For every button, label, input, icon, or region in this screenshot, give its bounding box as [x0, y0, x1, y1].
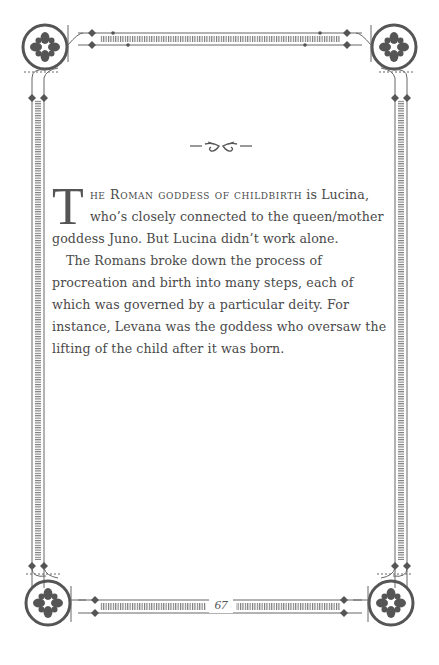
- corner-flourish-bottom-right: [353, 568, 413, 625]
- corner-flourish-bottom-left: [26, 568, 86, 625]
- body-text: The Roman goddess of childbirth is Lucin…: [52, 184, 392, 360]
- corner-flourish-top-left: [23, 25, 83, 78]
- fleuron-divider-icon: [188, 138, 254, 158]
- page-number: 67: [209, 597, 233, 613]
- corner-flourish-top-right: [356, 25, 416, 78]
- small-caps-lead: he Roman goddess of childbirth: [90, 187, 302, 202]
- drop-cap: T: [52, 187, 84, 227]
- paragraph-1: The Roman goddess of childbirth is Lucin…: [52, 184, 392, 250]
- paragraph-2: The Romans broke down the process of pro…: [52, 250, 392, 360]
